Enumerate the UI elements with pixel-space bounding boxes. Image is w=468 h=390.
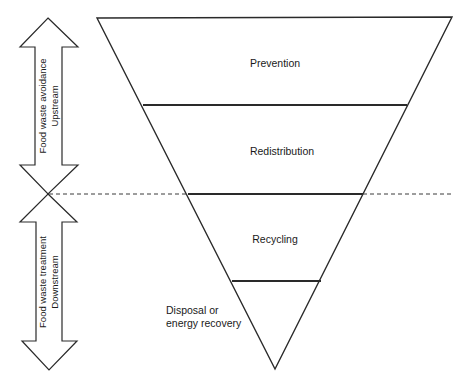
downstream-arrow-label: Food waste treatment Downstream xyxy=(37,236,61,328)
tier-label-disposal-line1: Disposal or xyxy=(166,304,241,317)
upstream-arrow-label: Food waste avoidance Upstream xyxy=(37,58,61,153)
inverted-pyramid xyxy=(97,17,452,369)
tier-label-redistribution: Redistribution xyxy=(250,145,314,157)
tier-label-recycling: Recycling xyxy=(252,233,298,245)
food-waste-hierarchy-diagram xyxy=(0,0,468,390)
upstream-arrow-label-line1: Food waste avoidance xyxy=(37,58,49,153)
tier-label-disposal: Disposal or energy recovery xyxy=(166,304,241,330)
upstream-arrow-label-line2: Upstream xyxy=(49,58,61,153)
downstream-arrow-label-line1: Food waste treatment xyxy=(37,236,49,328)
tier-label-prevention: Prevention xyxy=(250,57,300,69)
tier-label-disposal-line2: energy recovery xyxy=(166,317,241,330)
downstream-arrow-label-line2: Downstream xyxy=(49,236,61,328)
